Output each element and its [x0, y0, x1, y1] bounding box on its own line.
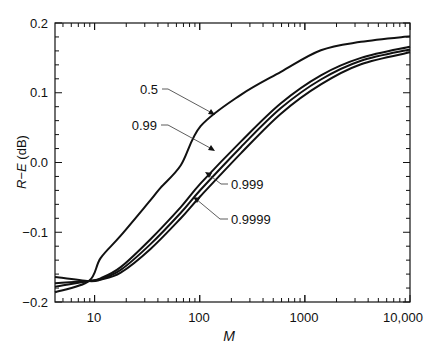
y-axis-label-dash: − — [14, 172, 29, 180]
curves — [55, 36, 410, 292]
y-tick-label: −0.1 — [22, 225, 48, 240]
callout-leader-line — [162, 89, 212, 113]
arrowhead-icon — [208, 145, 215, 151]
x-axis-label: M — [223, 328, 235, 344]
y-tick-label: 0.0 — [30, 155, 48, 170]
callout-leader-line — [161, 125, 212, 149]
y-tick-label: 0.1 — [30, 85, 48, 100]
x-tick-label: 10,000 — [383, 310, 423, 325]
y-axis-label: R−E (dB) — [14, 135, 29, 189]
curve-0.9999 — [55, 52, 410, 281]
y-tick-label: 0.2 — [30, 16, 48, 31]
curve-0.99 — [55, 47, 410, 287]
callout-label: 0.99 — [132, 118, 157, 133]
x-tick-label: 1000 — [290, 310, 319, 325]
y-axis-label-unit: (dB) — [14, 135, 29, 163]
y-tick-label: −0.2 — [22, 295, 48, 310]
chart-canvas: 0.2 0.1 0.0 −0.1 −0.2 10 100 1000 10,000… — [0, 0, 438, 350]
callout-label: 0.9999 — [231, 212, 271, 227]
callout-0.5: 0.5 — [140, 82, 215, 115]
x-tick-label: 10 — [87, 310, 101, 325]
callout-label: 0.999 — [231, 177, 264, 192]
y-axis-label-e: E — [14, 163, 29, 172]
callout-leader-line — [196, 199, 228, 219]
y-axis-label-r: R — [14, 180, 29, 189]
curve-0.5 — [55, 36, 410, 292]
callout-0.9999: 0.9999 — [193, 197, 271, 227]
callout-label: 0.5 — [140, 82, 158, 97]
x-tick-label: 100 — [188, 310, 210, 325]
arrowhead-icon — [208, 109, 215, 115]
